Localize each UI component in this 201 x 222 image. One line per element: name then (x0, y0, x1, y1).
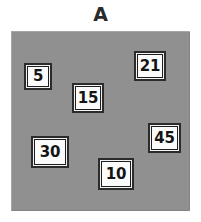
card-15[interactable]: 15 (72, 83, 104, 113)
card-10[interactable]: 10 (98, 158, 134, 190)
card-30-value: 30 (40, 145, 60, 160)
card-45[interactable]: 45 (148, 123, 181, 153)
card-5[interactable]: 5 (24, 63, 52, 90)
card-5-value: 5 (33, 69, 43, 84)
card-5-inner: 5 (27, 66, 49, 87)
card-15-inner: 15 (75, 86, 101, 110)
card-30-inner: 30 (34, 139, 66, 165)
stimulus-panel: 52115453010 (11, 31, 190, 211)
card-10-inner: 10 (101, 161, 131, 187)
card-45-inner: 45 (151, 126, 178, 150)
card-21-inner: 21 (137, 54, 163, 78)
card-15-value: 15 (78, 91, 98, 106)
card-30[interactable]: 30 (31, 136, 69, 168)
card-45-value: 45 (154, 131, 174, 146)
card-10-value: 10 (106, 167, 126, 182)
figure-root: A 52115453010 (0, 0, 201, 222)
card-21-value: 21 (140, 59, 160, 74)
panel-title: A (0, 4, 201, 25)
card-21[interactable]: 21 (134, 51, 166, 81)
